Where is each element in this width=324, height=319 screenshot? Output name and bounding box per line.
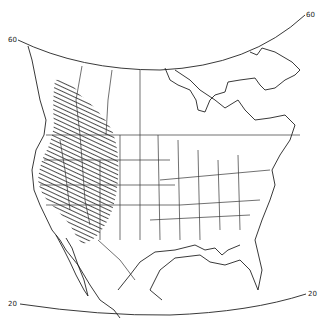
latitude-20-label-right: 20 [308,290,317,298]
latitude-60-label-right: 60 [306,11,315,19]
latitude-20-line [20,294,306,315]
gulf-coast-outline [118,245,240,290]
range-hatched-region [38,80,118,244]
baja-outline [56,235,88,296]
map-canvas: 60 60 20 20 [0,0,324,319]
latitude-60-line [18,15,305,70]
latitude-60-label-left: 60 [8,36,17,44]
latitude-20-label-left: 20 [8,300,17,308]
